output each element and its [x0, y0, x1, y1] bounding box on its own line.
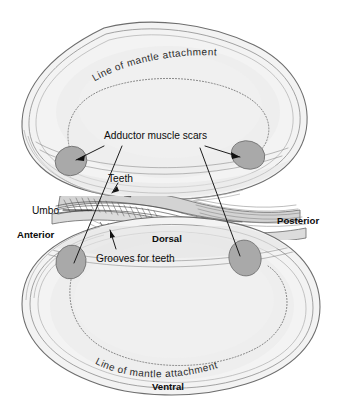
label-anterior: Anterior [17, 229, 55, 240]
bivalve-shell-diagram: Line of mantle attachment Adductor muscl… [0, 0, 340, 411]
label-ventral: Ventral [152, 381, 184, 392]
label-grooves-for-teeth: Grooves for teeth [96, 253, 175, 264]
label-teeth: Teeth [108, 173, 133, 184]
label-dorsal: Dorsal [152, 233, 182, 244]
label-umbo: Umbo [32, 205, 60, 216]
label-adductor-muscle-scars: Adductor muscle scars [104, 130, 207, 141]
label-posterior: Posterior [277, 215, 319, 226]
